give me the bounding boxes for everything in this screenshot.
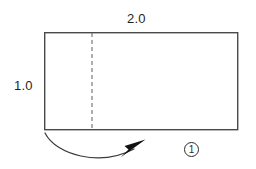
rotation-arrow-head xyxy=(121,140,146,158)
height-label: 1.0 xyxy=(14,79,33,92)
rotation-arrow-arc xyxy=(45,133,134,158)
width-label: 2.0 xyxy=(127,12,146,25)
step-marker-one-label: 1 xyxy=(189,145,195,155)
main-rectangle xyxy=(45,33,238,130)
step-marker-one: 1 xyxy=(184,142,199,157)
